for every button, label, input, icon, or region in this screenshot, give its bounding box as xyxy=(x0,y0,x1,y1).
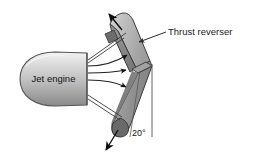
downward-deflected-thrust-arrow xyxy=(106,130,118,150)
jet-engine: Jet engine xyxy=(20,52,87,106)
flow-line-lower-inner xyxy=(88,99,120,120)
thrust-reverser-callout: Thrust reverser xyxy=(139,26,232,42)
flow-arrow-upper xyxy=(88,55,127,66)
engine-label: Jet engine xyxy=(32,73,76,84)
thrust-reverser-diagram: Jet engine xyxy=(0,0,253,158)
thrust-reverser-leader-line xyxy=(139,32,166,42)
angle-value-label: 20° xyxy=(132,128,146,138)
figure-canvas: Jet engine xyxy=(0,0,253,158)
flow-line-lower-outer xyxy=(88,95,122,117)
thrust-reverser-label: Thrust reverser xyxy=(168,26,232,37)
flow-arrow-lower xyxy=(88,80,126,87)
flow-arrow-middle xyxy=(88,70,126,73)
